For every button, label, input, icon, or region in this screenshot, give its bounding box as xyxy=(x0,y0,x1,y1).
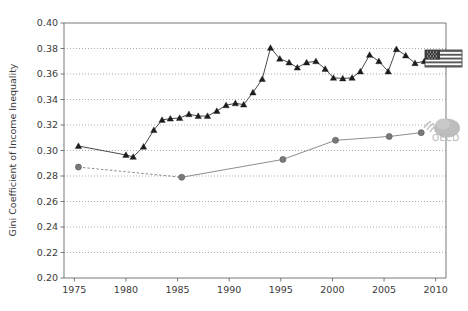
y-axis-tick-label: 0.20 xyxy=(37,272,58,283)
x-axis-tick-label: 2010 xyxy=(424,284,448,295)
y-axis-title: Gini Coefficient of Income Inequality xyxy=(7,63,18,236)
data-point-marker xyxy=(280,156,286,162)
x-axis-tick-label: 1980 xyxy=(114,284,138,295)
y-axis-tick-label: 0.30 xyxy=(37,145,58,156)
data-point-marker xyxy=(386,133,392,139)
gini-coefficient-chart-figure: 0.200.220.240.260.280.300.320.340.360.38… xyxy=(0,0,468,311)
data-point-marker xyxy=(179,174,185,180)
data-point-marker xyxy=(333,137,339,143)
y-axis-tick-label: 0.36 xyxy=(37,68,58,79)
x-axis-tick-label: 1990 xyxy=(217,284,241,295)
x-axis-tick-label: 2005 xyxy=(372,284,396,295)
data-point-marker xyxy=(75,164,81,170)
y-axis-ticks: 0.200.220.240.260.280.300.320.340.360.38… xyxy=(37,17,64,283)
x-axis-tick-label: 2000 xyxy=(320,284,344,295)
x-axis-tick-label: 1995 xyxy=(269,284,293,295)
y-axis-tick-label: 0.40 xyxy=(37,17,58,28)
y-axis-tick-label: 0.38 xyxy=(37,43,58,54)
data-point-marker xyxy=(418,130,424,136)
y-axis-tick-label: 0.28 xyxy=(37,170,58,181)
us-flag-icon xyxy=(425,50,462,67)
y-axis-tick-label: 0.24 xyxy=(37,221,58,232)
y-axis-tick-label: 0.26 xyxy=(37,196,58,207)
x-axis-tick-label: 1985 xyxy=(165,284,189,295)
x-axis-tick-label: 1975 xyxy=(62,284,86,295)
y-axis-tick-label: 0.32 xyxy=(37,119,58,130)
y-axis-tick-label: 0.22 xyxy=(37,247,58,258)
chart-canvas: 0.200.220.240.260.280.300.320.340.360.38… xyxy=(0,0,468,311)
y-axis-tick-label: 0.34 xyxy=(37,94,58,105)
oecd-logo-text: OECD xyxy=(432,133,460,143)
x-axis-ticks: 19751980198519901995200020052010 xyxy=(62,278,448,295)
